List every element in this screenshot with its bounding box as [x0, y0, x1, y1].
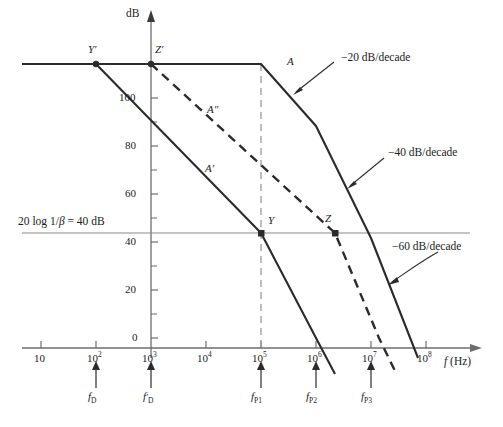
- point-label-Z: Z: [325, 213, 331, 224]
- y-tick-label-0: 0: [132, 332, 138, 343]
- curve-label-A-prime: A′: [205, 163, 214, 174]
- reference-label-suffix: = 40 dB: [65, 215, 105, 227]
- reference-line-label: 20 log 1/β = 40 dB: [18, 216, 105, 228]
- curve-label-A: A: [287, 56, 294, 67]
- fDprime-marker-arrow: [147, 361, 155, 388]
- x-tick-label-1e2: 102: [87, 353, 102, 364]
- freq-label-fD-prime: f′D: [143, 391, 153, 402]
- x-tick-label-1e3: 103: [142, 353, 157, 364]
- curve-label-A-double-prime: A″: [207, 104, 218, 115]
- freq-label-fP3: fP3: [361, 391, 372, 402]
- y-tick-label-20: 20: [125, 284, 136, 295]
- slope-40-arrow: [347, 158, 384, 189]
- y-axis-title: dB: [126, 8, 139, 20]
- fP2-marker-arrow: [312, 361, 320, 388]
- y-tick-label-80: 80: [125, 140, 136, 151]
- y-tick-label-60: 60: [125, 188, 136, 199]
- x-axis-title-unit: (Hz): [447, 355, 471, 367]
- slope-60-arrow: [388, 252, 438, 285]
- point-Z: [332, 230, 339, 237]
- fP1-marker-arrow: [257, 361, 265, 388]
- point-Y: [258, 230, 265, 237]
- freq-label-fP2: fP2: [306, 391, 317, 402]
- point-label-Y-prime: Y′: [88, 44, 97, 55]
- point-Z-prime: [148, 61, 154, 67]
- slope-annotation-60: −60 dB/decade: [392, 241, 461, 253]
- x-axis-title: f (Hz): [444, 356, 471, 368]
- y-tick-label-100: 100: [119, 92, 136, 103]
- freq-label-fP1: fP1: [251, 391, 262, 402]
- x-tick-label-1e7: 107: [362, 353, 377, 364]
- point-label-Z-prime: Z′: [155, 44, 164, 55]
- curve-A: [22, 64, 418, 358]
- reference-label-prefix: 20 log 1/: [18, 215, 59, 227]
- x-tick-label-1e1: 10: [34, 353, 45, 364]
- x-tick-label-1e6: 106: [307, 353, 322, 364]
- slope-annotation-40: −40 dB/decade: [388, 147, 457, 159]
- point-label-Y: Y: [268, 215, 274, 226]
- fP3-marker-arrow: [367, 361, 375, 388]
- x-tick-label-1e8: 108: [417, 353, 432, 364]
- point-Y-prime: [93, 61, 99, 67]
- slope-20-arrow: [293, 62, 334, 95]
- x-tick-label-1e4: 104: [197, 353, 212, 364]
- y-tick-label-40: 40: [125, 236, 136, 247]
- freq-label-fD: fD: [88, 391, 96, 402]
- fD-marker-arrow: [92, 361, 100, 388]
- slope-annotation-20: −20 dB/decade: [341, 52, 410, 64]
- x-tick-label-1e5: 105: [252, 353, 267, 364]
